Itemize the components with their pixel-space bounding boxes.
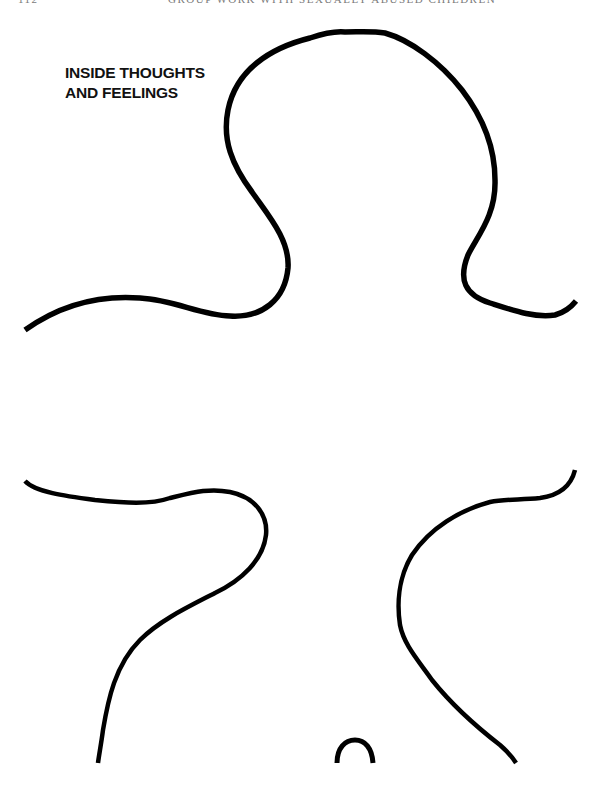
crotch-arch-outline [337,740,373,763]
book-page: 112 GROUP WORK WITH SEXUALLY ABUSED CHIL… [0,0,601,802]
right-arm-and-leg-outline [399,470,575,763]
head-and-shoulders-outline [25,32,576,330]
body-outline-figure [0,0,601,802]
left-arm-and-leg-outline [25,481,266,763]
